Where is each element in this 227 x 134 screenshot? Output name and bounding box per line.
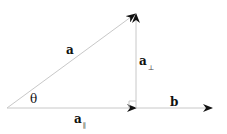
label-a-perp: a⊥: [139, 55, 153, 67]
label-a: a: [66, 44, 74, 56]
label-b: b: [170, 96, 178, 108]
right-angle-marker: [129, 101, 136, 108]
label-theta: θ: [30, 93, 37, 105]
label-a-perp-base: a: [139, 54, 147, 68]
label-a-perp-sub: ⊥: [148, 64, 155, 72]
label-a-parallel-base: a: [74, 112, 82, 126]
label-a-parallel: a∥: [74, 113, 85, 125]
vector-a-line: [7, 14, 135, 108]
label-a-parallel-sub: ∥: [83, 122, 86, 130]
vector-diagram: [0, 0, 227, 134]
